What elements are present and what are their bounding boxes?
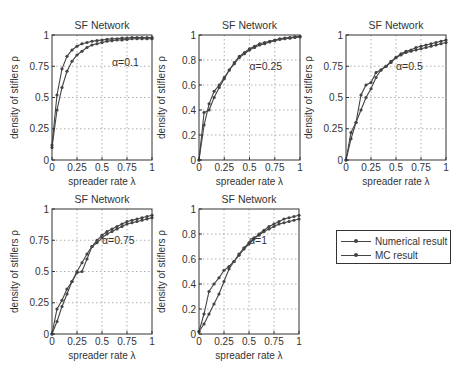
data-point-marker [55, 320, 58, 323]
data-point-marker [70, 280, 73, 283]
data-point-marker [202, 123, 205, 126]
subplot-title: SF Network [222, 193, 278, 205]
x-tick-label: 0.75 [265, 162, 285, 173]
data-point-marker [120, 225, 123, 228]
x-tick-label: 0.75 [411, 162, 431, 173]
x-axis-label: spreader rate λ [216, 176, 283, 187]
y-axis-label: density of stiflers ρ [303, 56, 314, 139]
data-point-marker [95, 241, 98, 244]
data-point-marker [248, 48, 251, 51]
data-point-marker [85, 41, 88, 44]
y-tick-label: 0.6 [182, 80, 196, 91]
y-tick-label: 0 [337, 155, 343, 166]
y-tick-label: 1 [190, 30, 196, 41]
y-tick-label: 0.75 [30, 61, 50, 72]
data-point-marker [100, 41, 103, 44]
data-point-marker [272, 225, 275, 228]
data-point-marker [60, 86, 63, 89]
data-point-marker [369, 81, 372, 84]
y-tick-label: 0.4 [182, 279, 196, 290]
data-point-marker [263, 42, 266, 45]
data-point-marker [253, 46, 256, 49]
data-point-marker [369, 87, 372, 90]
data-point-marker [90, 245, 93, 248]
data-point-marker [354, 121, 357, 124]
y-tick-label: 0.25 [30, 297, 50, 308]
data-point-marker [80, 50, 83, 53]
data-point-marker [202, 111, 205, 114]
x-axis-label: spreader rate λ [68, 350, 135, 361]
data-point-marker [55, 93, 58, 96]
y-axis-label: density of stiflers ρ [9, 230, 20, 313]
y-tick-label: 0.6 [182, 254, 196, 265]
y-tick-label: 0.2 [182, 130, 196, 141]
line-marker-icon [341, 250, 371, 260]
data-point-marker [213, 96, 216, 99]
data-point-marker [394, 56, 397, 59]
legend: Numerical result MC result [336, 230, 451, 264]
data-point-marker [85, 252, 88, 255]
data-point-marker [283, 37, 286, 40]
subplot-alpha-0-25: 00.250.50.75100.20.40.60.81SF Networkspr… [149, 13, 310, 198]
data-point-marker [379, 68, 382, 71]
data-point-marker [120, 38, 123, 41]
data-point-marker [60, 299, 63, 302]
data-point-marker [384, 65, 387, 68]
data-point-marker [95, 39, 98, 42]
data-point-marker [419, 47, 422, 50]
y-tick-label: 0 [43, 155, 49, 166]
data-point-marker [115, 227, 118, 230]
data-point-marker [434, 43, 437, 46]
subplot-title: SF Network [75, 19, 131, 31]
y-tick-label: 0.75 [30, 235, 50, 246]
x-tick-label: 0.5 [389, 162, 403, 173]
data-point-marker [349, 137, 352, 140]
data-point-marker [80, 42, 83, 45]
subplot-title: SF Network [75, 193, 131, 205]
subplot-alpha-0-75: 00.250.50.75100.250.50.751SF Networkspre… [2, 187, 162, 372]
data-point-marker [65, 70, 68, 73]
data-point-marker [90, 40, 93, 43]
subplot-alpha-0-1: 00.250.50.75100.250.50.751SF Networkspre… [2, 13, 162, 198]
data-point-marker [223, 76, 226, 79]
data-point-marker [232, 260, 235, 263]
y-tick-label: 0 [43, 329, 49, 340]
x-axis-label: spreader rate λ [215, 350, 282, 361]
y-tick-label: 0 [190, 155, 196, 166]
data-point-marker [287, 220, 290, 223]
data-point-marker [267, 227, 270, 230]
data-point-marker [273, 39, 276, 42]
legend-label: Numerical result [375, 236, 447, 247]
data-point-marker [60, 305, 63, 308]
data-point-marker [90, 43, 93, 46]
data-point-marker [262, 230, 265, 233]
data-point-marker [288, 37, 291, 40]
y-tick-label: 0.25 [324, 123, 344, 134]
data-point-marker [65, 292, 68, 295]
data-point-marker [364, 96, 367, 99]
data-point-marker [60, 67, 63, 70]
data-point-marker [399, 53, 402, 56]
data-point-marker [359, 108, 362, 111]
y-tick-label: 0.5 [35, 266, 49, 277]
data-point-marker [237, 252, 240, 255]
y-tick-label: 0.75 [324, 61, 344, 72]
y-axis-label: density of stiflers ρ [156, 230, 167, 313]
data-point-marker [282, 217, 285, 220]
data-point-marker [439, 42, 442, 45]
data-point-marker [130, 37, 133, 40]
data-point-marker [125, 38, 128, 41]
subplot-title: SF Network [222, 19, 278, 31]
data-point-marker [429, 45, 432, 48]
line-marker-icon [341, 236, 371, 246]
data-point-marker [258, 43, 261, 46]
data-point-marker [75, 270, 78, 273]
x-tick-label: 0 [196, 336, 202, 347]
data-point-marker [207, 290, 210, 293]
data-point-marker [125, 222, 128, 225]
data-point-marker [278, 38, 281, 41]
data-point-marker [105, 40, 108, 43]
y-tick-label: 0.25 [30, 123, 50, 134]
x-tick-label: 0.25 [214, 336, 234, 347]
data-point-marker [208, 102, 211, 105]
